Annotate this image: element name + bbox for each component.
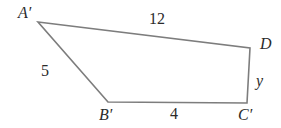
side-length-label-bottom: 4 (170, 106, 178, 122)
side-length-label-top: 12 (149, 11, 165, 27)
quadrilateral-outline (38, 22, 250, 103)
side-length-label-right-unknown: y (256, 73, 263, 89)
geometry-figure: A′ D C′ B′ 12 5 4 y (0, 0, 281, 128)
vertex-label-a-prime: A′ (18, 5, 31, 21)
side-length-label-left: 5 (41, 63, 49, 79)
vertex-label-c-prime: C′ (238, 107, 252, 123)
vertex-label-b-prime: B′ (99, 107, 112, 123)
vertex-label-d: D (260, 36, 272, 52)
